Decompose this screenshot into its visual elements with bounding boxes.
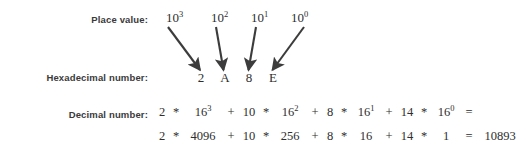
hex-digit-1: A xyxy=(218,71,232,84)
place-value-1-base: 10 xyxy=(211,10,224,25)
decimal-row-label: Decimal number: xyxy=(0,109,148,120)
line1-term0-operator: * xyxy=(169,106,183,119)
place-value-0-base: 10 xyxy=(166,10,179,25)
line1-term0-power: 163 xyxy=(183,106,223,119)
line1-term1-coefficient: 10 xyxy=(239,106,259,119)
line1-term1-exponent: 2 xyxy=(294,103,298,113)
line2-term1-coefficient: 10 xyxy=(239,130,259,143)
line2-term0-coefficient: 2 xyxy=(155,130,169,143)
line2-term2-operator: * xyxy=(337,130,351,143)
line1-plus-2: + xyxy=(381,106,397,119)
line1-term2-base: 16 xyxy=(358,105,371,119)
line2-term1-value: 256 xyxy=(273,130,307,143)
hexadecimal-row-label: Hexadecimal number: xyxy=(0,72,148,83)
arrow-to-A-icon xyxy=(216,27,224,70)
line2-plus-1: + xyxy=(307,130,323,143)
place-value-0-exponent: 3 xyxy=(179,9,183,19)
place-value-1-exponent: 2 xyxy=(224,9,228,19)
line1-equals: = xyxy=(461,106,477,119)
place-value-3: 100 xyxy=(291,11,308,24)
place-value-2-base: 10 xyxy=(251,10,264,25)
line1-term2-operator: * xyxy=(337,106,351,119)
line1-term3-operator: * xyxy=(417,106,431,119)
line1-term2-power: 161 xyxy=(351,106,381,119)
hex-digit-3: E xyxy=(266,71,280,84)
line2-term3-coefficient: 14 xyxy=(397,130,417,143)
line2-plus-0: + xyxy=(223,130,239,143)
place-value-1: 102 xyxy=(211,11,228,24)
place-value-row-label: Place value: xyxy=(0,14,148,25)
line1-term1-power: 162 xyxy=(273,106,307,119)
line1-term1-base: 16 xyxy=(282,105,295,119)
hex-digit-2: 8 xyxy=(242,71,256,84)
line1-term2-exponent: 1 xyxy=(370,103,374,113)
line1-term0-exponent: 3 xyxy=(207,103,211,113)
place-value-2: 101 xyxy=(251,11,268,24)
arrow-to-8-icon xyxy=(249,27,257,70)
line1-term2-coefficient: 8 xyxy=(323,106,337,119)
line2-term3-value: 1 xyxy=(431,130,461,143)
line1-term3-exponent: 0 xyxy=(450,103,454,113)
line2-term0-operator: * xyxy=(169,130,183,143)
place-value-0: 103 xyxy=(166,11,183,24)
hex-digit-0: 2 xyxy=(194,71,208,84)
line1-term1-operator: * xyxy=(259,106,273,119)
line1-term0-coefficient: 2 xyxy=(155,106,169,119)
line1-plus-0: + xyxy=(223,106,239,119)
line2-term3-operator: * xyxy=(417,130,431,143)
line2-plus-2: + xyxy=(381,130,397,143)
line1-plus-1: + xyxy=(307,106,323,119)
decimal-result: 10893 xyxy=(477,130,520,143)
decimal-expansion-line-2: 2*4096+10*256+8*16+14*1=10893 xyxy=(155,130,520,143)
line1-term3-power: 160 xyxy=(431,106,461,119)
place-value-3-exponent: 0 xyxy=(304,9,308,19)
line1-term0-base: 16 xyxy=(195,105,208,119)
line2-term2-coefficient: 8 xyxy=(323,130,337,143)
line2-term2-value: 16 xyxy=(351,130,381,143)
arrow-to-E-icon xyxy=(273,27,305,70)
line1-term3-base: 16 xyxy=(438,105,451,119)
line2-term0-value: 4096 xyxy=(183,130,223,143)
line1-term3-coefficient: 14 xyxy=(397,106,417,119)
decimal-expansion-line-1: 2*163+10*162+8*161+14*160= xyxy=(155,106,477,119)
line2-equals: = xyxy=(461,130,477,143)
line2-term1-operator: * xyxy=(259,130,273,143)
place-value-2-exponent: 1 xyxy=(264,9,268,19)
place-value-3-base: 10 xyxy=(291,10,304,25)
arrow-to-2-icon xyxy=(168,27,200,70)
